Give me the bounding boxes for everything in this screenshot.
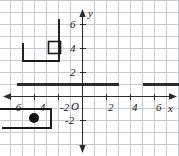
- coordinate-plane-figure: -6 -4 -2 2 4 6 6 4 2 -2 O x y: [0, 0, 179, 156]
- x-axis-arrow-right: [169, 93, 177, 99]
- x-axis: [3, 93, 177, 99]
- y-axis-name-label: y: [88, 8, 93, 19]
- x-tick-label-neg4: -4: [36, 102, 45, 113]
- filled-point-marker: [29, 113, 39, 123]
- plot-canvas: [0, 0, 179, 156]
- x-tick-label-neg6: -6: [12, 102, 21, 113]
- x-axis-name-label: x: [168, 103, 173, 114]
- x-axis-arrow-left: [3, 93, 11, 99]
- x-tick-label-6: 6: [156, 102, 162, 113]
- y-axis-arrow-down: [79, 145, 85, 153]
- u-shape-figure: [23, 19, 59, 61]
- origin-label: O: [71, 101, 79, 112]
- y-tick-label-2: 2: [70, 67, 76, 78]
- x-tick-label-2: 2: [108, 102, 114, 113]
- y-axis: [79, 9, 85, 153]
- x-tick-label-neg2: -2: [60, 102, 69, 113]
- y-tick-label-neg2: -2: [65, 115, 74, 126]
- grid-horizontal-lines: [0, 1, 179, 145]
- y-tick-label-6: 6: [70, 19, 76, 30]
- y-tick-label-4: 4: [70, 43, 76, 54]
- x-tick-label-4: 4: [132, 102, 138, 113]
